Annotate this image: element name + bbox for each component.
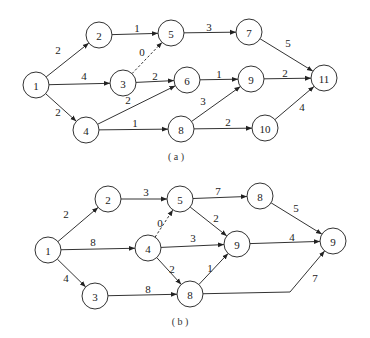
edge-weight-label: 2 <box>225 116 231 128</box>
node-a-9: 9 <box>238 66 264 92</box>
network-diagram-a: 2421022131523241234567891011( a ) <box>23 19 337 163</box>
node-label: 1 <box>45 245 51 257</box>
edge-a-8-10 <box>194 128 252 129</box>
node-a-10: 10 <box>252 115 278 141</box>
edge-weight-label: 1 <box>132 117 138 129</box>
node-label: 2 <box>96 30 102 42</box>
edge-weight-label: 3 <box>143 186 149 198</box>
edge-weight-label: 3 <box>190 232 196 244</box>
edge-weight-label: 5 <box>293 202 299 214</box>
edge-b-1-4 <box>61 248 135 249</box>
node-label: 3 <box>92 291 98 303</box>
node-a-2: 2 <box>86 22 112 48</box>
node-b-2: 2 <box>95 186 121 212</box>
edge-b-8-9 <box>203 251 325 294</box>
node-label: 9 <box>248 74 254 86</box>
node-b-1: 1 <box>35 237 61 263</box>
edge-b-8-7 <box>199 253 228 284</box>
edge-weight-label: 0 <box>157 217 163 229</box>
edge-weight-label: 7 <box>312 272 318 284</box>
node-b-8: 8 <box>177 281 203 307</box>
node-a-3: 3 <box>110 70 136 96</box>
edge-weight-label: 2 <box>152 70 158 82</box>
edge-b-4-7 <box>161 245 224 248</box>
diagram-caption: ( a ) <box>168 151 184 163</box>
node-label: 8 <box>187 289 193 301</box>
node-label: 2 <box>105 194 111 206</box>
node-b-6: 8 <box>247 183 273 209</box>
node-label: 10 <box>260 123 272 135</box>
diagram-caption: ( b ) <box>172 316 189 328</box>
edge-b-1-3 <box>57 259 85 287</box>
edge-weight-label: 8 <box>90 236 96 248</box>
node-a-7: 7 <box>236 19 262 45</box>
edge-weight-label: 4 <box>81 70 87 82</box>
node-label: 5 <box>168 28 174 40</box>
node-label: 9 <box>330 236 336 248</box>
node-a-11: 11 <box>311 65 337 91</box>
edge-weight-label: 2 <box>169 263 175 275</box>
edge-weight-label: 7 <box>215 185 221 197</box>
edge-weight-label: 3 <box>206 21 212 33</box>
edge-weight-label: 2 <box>63 208 69 220</box>
node-b-4: 4 <box>135 235 161 261</box>
edge-weight-label: 1 <box>216 68 222 80</box>
node-label: 8 <box>178 124 184 136</box>
edge-weight-label: 1 <box>134 22 140 34</box>
node-b-3: 3 <box>82 283 108 309</box>
node-label: 5 <box>177 194 183 206</box>
edge-weight-label: 4 <box>299 101 305 113</box>
edge-weight-label: 4 <box>289 231 295 243</box>
node-label: 9 <box>234 239 240 251</box>
node-label: 6 <box>184 75 190 87</box>
edge-weight-label: 2 <box>282 67 288 79</box>
node-label: 1 <box>33 80 39 92</box>
network-diagrams: 2421022131523241234567891011( a ) 284303… <box>0 0 370 338</box>
node-a-4: 4 <box>73 117 99 143</box>
node-label: 7 <box>246 27 252 39</box>
edge-a-1-4 <box>46 94 77 122</box>
edge-weight-label: 2 <box>55 106 61 118</box>
node-label: 11 <box>319 73 330 85</box>
node-label: 8 <box>257 191 263 203</box>
node-b-7: 9 <box>224 231 250 257</box>
node-label: 4 <box>83 125 89 137</box>
edge-weight-label: 4 <box>63 272 69 284</box>
edge-weight-label: 2 <box>213 212 219 224</box>
node-a-8: 8 <box>168 116 194 142</box>
edge-weight-label: 5 <box>285 37 291 49</box>
edge-weight-label: 8 <box>145 283 151 295</box>
node-a-1: 1 <box>23 72 49 98</box>
edge-weight-label: 3 <box>200 95 206 107</box>
edge-a-4-8 <box>99 129 168 130</box>
edge-a-3-5-dummy <box>132 42 162 73</box>
edge-weight-label: 0 <box>139 46 145 58</box>
node-label: 4 <box>145 243 151 255</box>
network-diagram-b: 28430328721547123458989( b ) <box>35 183 346 328</box>
edge-a-8-9 <box>192 87 241 122</box>
edge-a-10-11 <box>275 86 314 119</box>
node-b-5: 5 <box>167 186 193 212</box>
node-a-6: 6 <box>174 67 200 93</box>
edge-b-7-9 <box>250 241 320 243</box>
edge-weight-label: 1 <box>207 262 213 274</box>
node-label: 3 <box>120 78 126 90</box>
edge-a-1-3 <box>49 83 110 84</box>
edge-weight-label: 2 <box>55 44 61 56</box>
node-b-9: 9 <box>320 228 346 254</box>
node-a-5: 5 <box>158 20 184 46</box>
edge-b-3-8 <box>108 294 177 295</box>
